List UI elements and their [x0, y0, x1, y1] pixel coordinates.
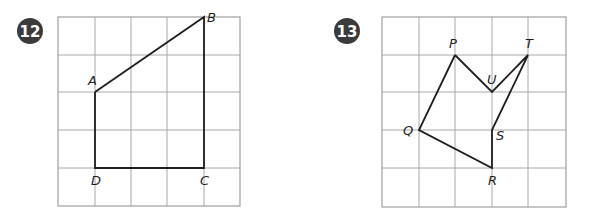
vertex-label-d: D [91, 173, 101, 188]
problem-number: 13 [337, 23, 358, 41]
square-grid [58, 17, 240, 206]
problem-12: 12 ABCD [17, 10, 240, 206]
problem-badge: 13 [334, 18, 360, 44]
vertex-labels: PUTSRQ [403, 36, 534, 188]
problem-13: 13 PUTSRQ [334, 17, 566, 207]
vertex-label-p: P [449, 36, 457, 51]
vertex-label-t: T [525, 36, 534, 51]
problem-badge: 12 [17, 18, 43, 44]
polygon-pqrstu [419, 55, 528, 168]
grid-border [58, 17, 240, 206]
vertex-label-q: Q [403, 123, 413, 138]
vertex-label-b: B [207, 10, 216, 25]
vertex-label-u: U [487, 72, 497, 87]
vertex-label-s: S [496, 128, 504, 143]
grid-border [382, 17, 566, 207]
vertex-label-a: A [87, 73, 97, 88]
vertex-label-c: C [200, 173, 210, 188]
problem-number: 12 [20, 23, 41, 41]
square-grid [382, 17, 566, 207]
diagram-canvas: 12 ABCD 13 PUTSRQ [0, 0, 592, 219]
vertex-labels: ABCD [87, 10, 216, 188]
vertex-label-r: R [488, 173, 497, 188]
